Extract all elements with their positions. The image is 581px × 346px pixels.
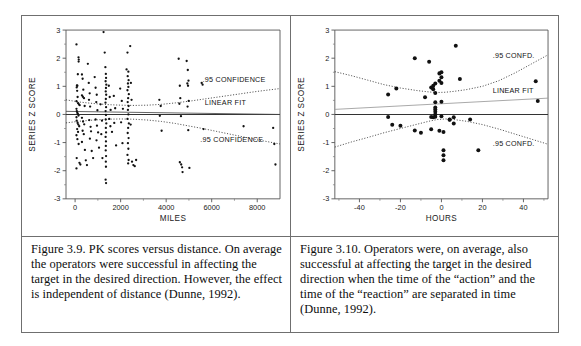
annotation-linear-fit-label: LINEAR FIT (493, 85, 534, 94)
data-point (75, 134, 77, 136)
data-point (105, 149, 107, 151)
data-point (76, 119, 78, 121)
data-point (102, 31, 104, 33)
data-point (105, 182, 107, 184)
data-point (131, 161, 133, 163)
data-point (105, 90, 107, 92)
data-point (101, 119, 103, 121)
figure-page: -3-2-1012302000400060008000MILESSERIES Z… (0, 0, 581, 346)
data-point (105, 145, 107, 147)
data-point (452, 121, 456, 125)
data-point (398, 124, 402, 128)
chart-svg-miles: -3-2-1012302000400060008000MILESSERIES Z… (22, 16, 290, 236)
data-point (127, 132, 129, 134)
data-point (431, 87, 435, 91)
figure-3-10-chart-cell: -3-2-10123-40-2002040HOURSSERIES Z SCORE… (290, 16, 558, 236)
data-point (130, 99, 132, 101)
chart-row: -3-2-1012302000400060008000MILESSERIES Z… (22, 16, 558, 236)
data-point (534, 79, 538, 83)
y-tick-label: -2 (54, 166, 61, 175)
data-point (89, 137, 91, 139)
data-point (130, 82, 132, 84)
series-pk-scores (75, 31, 276, 184)
data-point (76, 85, 78, 87)
y-tick-label: 1 (56, 82, 60, 91)
data-point (386, 115, 390, 119)
data-point (90, 130, 92, 132)
data-point (105, 131, 107, 133)
data-point (127, 71, 129, 73)
data-point (104, 66, 106, 68)
data-point (386, 92, 390, 96)
data-point (536, 99, 540, 103)
data-point (179, 85, 181, 87)
annotation-lower-confidence-label: .95 CONFIDENCE (200, 135, 263, 144)
data-point (109, 125, 111, 127)
data-point (84, 105, 86, 107)
data-point (99, 103, 101, 105)
data-point (125, 68, 127, 70)
data-point (115, 144, 117, 146)
data-point (108, 85, 110, 87)
data-point (423, 95, 427, 99)
data-point (126, 118, 128, 120)
data-point (105, 83, 107, 85)
data-point (100, 133, 102, 135)
data-point (76, 157, 78, 159)
figure-table: -3-2-1012302000400060008000MILESSERIES Z… (21, 15, 559, 333)
data-point (180, 163, 182, 165)
figure-3-10-caption-cell: Figure 3.10. Operators were, on average,… (290, 237, 558, 332)
data-point (476, 148, 480, 152)
data-point (127, 101, 129, 103)
data-point (82, 120, 84, 122)
data-point (186, 60, 188, 62)
data-point (419, 131, 423, 135)
data-point (81, 73, 83, 75)
data-point (448, 118, 452, 122)
data-point (394, 87, 398, 91)
data-point (105, 98, 107, 100)
data-point (160, 130, 162, 132)
data-point (181, 166, 183, 168)
y-tick-label: 3 (56, 26, 60, 35)
data-point (439, 100, 443, 104)
data-point (104, 80, 106, 82)
data-point (97, 131, 99, 133)
data-point (433, 81, 437, 85)
x-tick-label: 8000 (249, 203, 265, 212)
data-point (105, 161, 107, 163)
data-point (127, 82, 129, 84)
data-point (79, 163, 81, 165)
data-point (89, 126, 91, 128)
data-point (127, 75, 129, 77)
data-point (180, 115, 182, 117)
data-point (77, 114, 79, 116)
data-point (105, 122, 107, 124)
data-point (75, 108, 77, 110)
y-tick-label: 0 (325, 110, 329, 119)
data-point (186, 82, 188, 84)
x-axis-title: HOURS (426, 214, 458, 223)
data-point (105, 73, 107, 75)
data-point (92, 157, 94, 159)
figure-3-10-caption: Figure 3.10. Operators were, on average,… (291, 237, 558, 321)
data-point (77, 60, 79, 62)
data-point (179, 161, 181, 163)
data-point (187, 69, 189, 71)
data-point (113, 95, 115, 97)
data-point (75, 167, 77, 169)
annotation-upper-confidence-label: .95 CONFIDENCE (203, 75, 266, 84)
x-tick-label: -20 (395, 203, 406, 212)
data-point (75, 43, 77, 45)
data-point (441, 130, 445, 134)
data-point (274, 163, 276, 165)
data-point (441, 148, 445, 152)
x-tick-label: 2000 (112, 203, 128, 212)
data-point (105, 155, 107, 157)
data-point (77, 56, 79, 58)
data-point (178, 103, 180, 105)
data-point (187, 129, 189, 131)
data-point (433, 100, 437, 104)
data-point (105, 140, 107, 142)
data-point (127, 137, 129, 139)
